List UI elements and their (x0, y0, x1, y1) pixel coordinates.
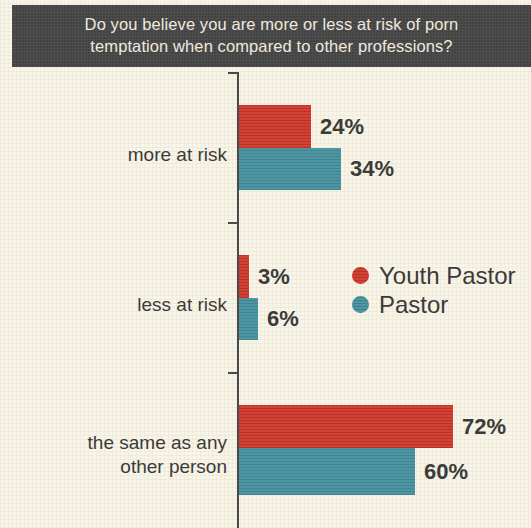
bar-value-youth-pastor-less-at-risk: 3% (258, 264, 290, 290)
category-label-less-at-risk: less at risk (27, 293, 227, 317)
page-title: Do you believe you are more or less at r… (71, 14, 473, 58)
category-label-more-at-risk: more at risk (27, 143, 227, 167)
chart-title-bar: Do you believe you are more or less at r… (12, 5, 531, 67)
bar-value-youth-pastor-same: 72% (462, 414, 506, 440)
chart-legend: Youth Pastor Pastor (352, 263, 516, 321)
bar-value-pastor-more-at-risk: 34% (350, 156, 394, 182)
legend-dot-youth-pastor-icon (352, 267, 369, 284)
bar-value-youth-pastor-more-at-risk: 24% (320, 114, 364, 140)
legend-label-pastor: Pastor (379, 292, 448, 318)
bar-row-youth-pastor-less-at-risk: 3% (239, 255, 290, 298)
legend-item-youth-pastor: Youth Pastor (352, 263, 516, 289)
bar-youth-pastor-less-at-risk (239, 255, 249, 298)
infographic-chart: Do you believe you are more or less at r… (0, 0, 531, 528)
bar-row-youth-pastor-more-at-risk: 24% (239, 105, 364, 148)
bar-pastor-less-at-risk (239, 298, 258, 340)
axis-tick-2 (228, 372, 238, 374)
bar-row-pastor-less-at-risk: 6% (239, 298, 299, 340)
bar-youth-pastor-same (239, 405, 453, 448)
bar-row-pastor-more-at-risk: 34% (239, 148, 394, 190)
bar-pastor-same (239, 448, 415, 495)
bar-row-youth-pastor-same: 72% (239, 405, 506, 448)
bar-youth-pastor-more-at-risk (239, 105, 311, 148)
category-label-same-as-any-other-person: the same as any other person (27, 431, 227, 480)
bar-value-pastor-less-at-risk: 6% (267, 306, 299, 332)
bar-row-pastor-same: 60% (239, 448, 468, 495)
bar-pastor-more-at-risk (239, 148, 341, 190)
axis-tick-0 (228, 72, 238, 74)
legend-label-youth-pastor: Youth Pastor (379, 263, 516, 289)
bar-value-pastor-same: 60% (424, 459, 468, 485)
plot-area: more at risk 24% 34% less at risk 3% 6% (0, 67, 531, 528)
axis-tick-1 (228, 222, 238, 224)
legend-dot-pastor-icon (352, 296, 369, 313)
legend-item-pastor: Pastor (352, 292, 516, 318)
